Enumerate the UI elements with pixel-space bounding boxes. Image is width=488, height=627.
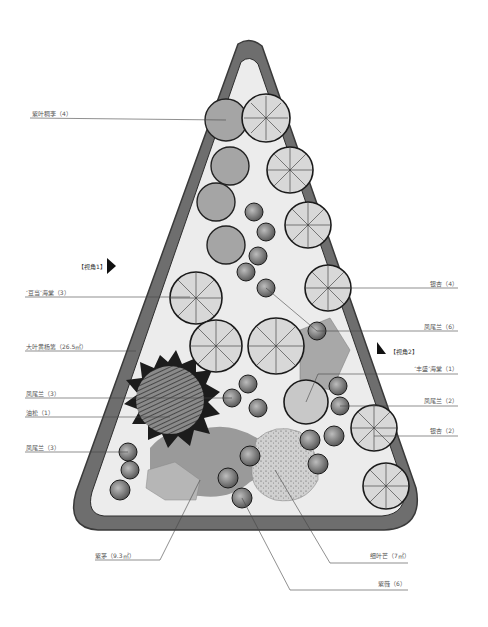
label-ginkgo-2: 银杏（2） — [408, 427, 458, 434]
label-ginkgo-4: 银杏（4） — [408, 280, 458, 287]
label-chokecherry: 紫叶稠李（4） — [32, 110, 72, 117]
planting-plan-diagram: 紫叶稠李（4） 【视角1】 ‘豆当’海棠（3） 大叶黄杨篱（26.5㎡） 凤尾兰… — [0, 0, 488, 627]
label-yucca-1: 凤尾兰（3） — [26, 390, 60, 397]
label-doudang-crabapple: ‘豆当’海棠（3） — [26, 289, 70, 296]
label-yucca-6: 凤尾兰（6） — [400, 323, 458, 330]
label-fengsheng-crabapple: ‘丰盛’海棠（1） — [385, 365, 458, 372]
label-crape-myrtle: 紫薇（6） — [378, 580, 406, 587]
view-marker-1: 【视角1】 — [78, 262, 106, 271]
view-arrow-2-icon — [377, 342, 386, 354]
label-pine: 油松（1） — [26, 409, 54, 416]
label-euonymus-hedge: 大叶黄杨篱（26.5㎡） — [26, 343, 87, 350]
label-purple-grass: 紫茅（9.3㎡） — [95, 552, 135, 559]
view-arrow-1-icon — [107, 258, 116, 274]
label-yucca-2: 凤尾兰（3） — [26, 444, 60, 451]
label-yucca-2r: 凤尾兰（2） — [400, 397, 458, 404]
view-marker-2: 【视角2】 — [390, 347, 418, 356]
plan-drawing — [0, 0, 488, 627]
label-miscanthus: 细叶芒（7㎡） — [370, 552, 410, 559]
